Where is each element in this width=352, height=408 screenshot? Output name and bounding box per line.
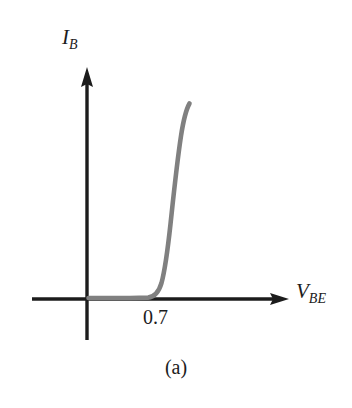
figure-container: IB VBE 0.7 (a) <box>0 0 352 408</box>
y-axis-arrowhead <box>81 67 93 87</box>
x-axis-symbol: V <box>296 279 309 303</box>
figure-caption: (a) <box>0 357 352 377</box>
y-axis-subscript: B <box>69 37 78 52</box>
x-axis-label: VBE <box>296 281 326 302</box>
base-current-curve <box>89 104 190 299</box>
y-axis-symbol: I <box>62 25 69 49</box>
x-tick-label-threshold: 0.7 <box>143 307 168 327</box>
x-axis-subscript: BE <box>309 291 327 306</box>
y-axis-label: IB <box>62 27 78 48</box>
plot-canvas <box>0 0 352 408</box>
